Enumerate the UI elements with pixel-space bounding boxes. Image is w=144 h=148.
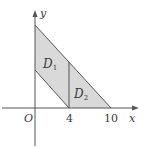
region-label-d2-sub: 2: [84, 94, 88, 102]
region-label-d2-main: D: [73, 87, 84, 101]
tick-label-10: 10: [104, 112, 118, 125]
origin-label: O: [24, 112, 33, 125]
y-axis-label: y: [39, 7, 47, 20]
tick-label-4: 4: [66, 112, 73, 125]
x-axis-label: x: [129, 112, 136, 125]
region-diagram: y x O 4 10 D1 D2: [0, 0, 144, 148]
region-label-d1-sub: 1: [53, 64, 57, 72]
region-label-d1-main: D: [42, 57, 53, 71]
y-axis-arrow-icon: [33, 10, 38, 17]
x-axis-arrow-icon: [132, 106, 139, 111]
